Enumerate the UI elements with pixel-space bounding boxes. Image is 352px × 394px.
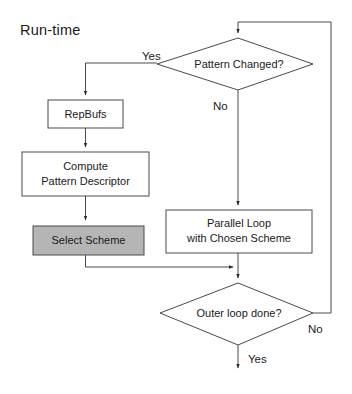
- node-parallel-loop[interactable]: Parallel Loop with Chosen Scheme: [166, 210, 312, 253]
- edge-label-outer-no: No: [308, 323, 323, 335]
- node-label-pattern-changed: Pattern Changed?: [194, 58, 283, 70]
- node-label-select-scheme: Select Scheme: [52, 234, 126, 246]
- node-label-parallel-loop-line-2: with Chosen Scheme: [186, 232, 291, 244]
- edge-select-scheme-to-merge: [86, 255, 234, 267]
- node-label-parallel-loop-line-1: Parallel Loop: [207, 217, 271, 229]
- node-select-scheme[interactable]: Select Scheme: [33, 226, 144, 255]
- node-label-outer-loop-done: Outer loop done?: [196, 307, 281, 319]
- edge-label-pattern-yes: Yes: [142, 50, 161, 62]
- node-compute-pattern-descriptor[interactable]: Compute Pattern Descriptor: [22, 152, 149, 196]
- edge-outer-no-riser: [313, 22, 331, 313]
- diagram-title: Run-time: [20, 22, 80, 38]
- node-label-repbufs: RepBufs: [64, 108, 107, 120]
- edge-feedback-to-pattern-changed: [238, 22, 331, 33]
- node-label-compute-line-2: Pattern Descriptor: [41, 175, 130, 187]
- edge-label-outer-yes: Yes: [248, 353, 267, 365]
- flowchart-canvas: Run-time Pattern Changed? RepBufs: [0, 0, 352, 394]
- flowchart-diagram: Run-time Pattern Changed? RepBufs: [0, 0, 352, 394]
- node-label-compute-line-1: Compute: [63, 160, 108, 172]
- node-pattern-changed[interactable]: Pattern Changed?: [157, 38, 313, 90]
- edge-pattern-yes-to-repbufs: [86, 63, 158, 95]
- node-outer-loop-done[interactable]: Outer loop done?: [160, 283, 313, 345]
- edge-label-pattern-no: No: [213, 100, 228, 112]
- node-repbufs[interactable]: RepBufs: [48, 100, 123, 128]
